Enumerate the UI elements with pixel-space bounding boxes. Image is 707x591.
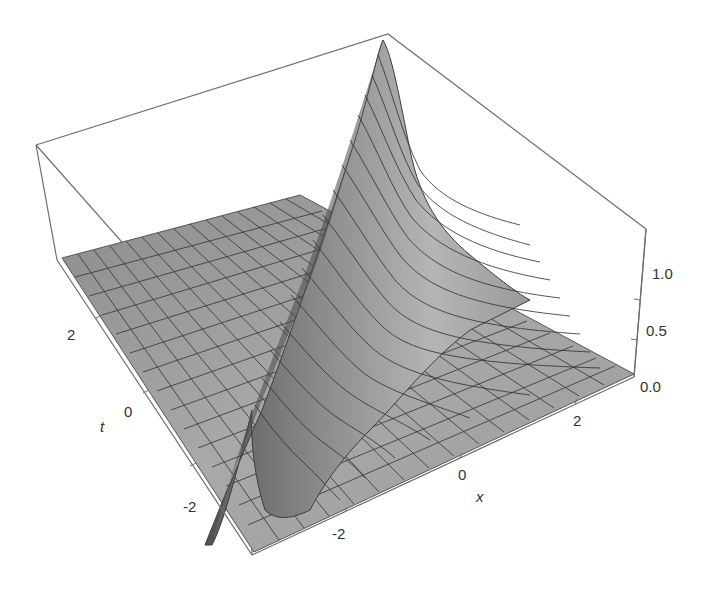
x-tick-neg2: -2	[332, 525, 345, 542]
t-tick-neg2: -2	[183, 498, 196, 515]
z-tick-0-5: 0.5	[646, 322, 667, 339]
z-tick-1-0: 1.0	[652, 265, 673, 282]
x-axis-label: x	[476, 488, 484, 505]
t-tick-2: 2	[67, 326, 75, 343]
surface-plot	[0, 0, 707, 591]
t-axis-label: t	[100, 418, 104, 435]
t-tick-0: 0	[124, 403, 132, 420]
x-tick-2: 2	[573, 412, 581, 429]
x-tick-0: 0	[458, 466, 466, 483]
z-tick-0-0: 0.0	[640, 378, 661, 395]
